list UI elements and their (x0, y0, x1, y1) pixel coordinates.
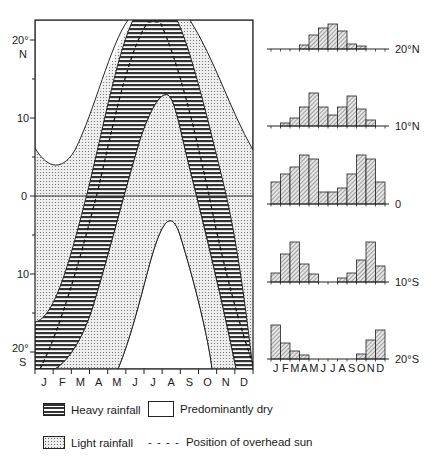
histogram-month-label: O (357, 362, 366, 374)
histogram-month-label: A (339, 362, 347, 374)
month-label: M (112, 376, 121, 388)
y-axis (30, 40, 35, 352)
histogram-month-label: F (282, 362, 289, 374)
histogram-month-label: S (348, 362, 355, 374)
month-label: O (203, 376, 212, 388)
month-label: M (76, 376, 85, 388)
light-rainfall-swatch (43, 436, 65, 449)
legend-heavy: Heavy rainfall (43, 403, 141, 416)
histogram-month-label: M (290, 362, 299, 374)
month-label: D (240, 376, 248, 388)
legend-light-label: Light rainfall (71, 437, 133, 449)
histogram: 10°S (267, 242, 419, 288)
y-label-10s: 10 (17, 268, 29, 280)
legend-heavy-label: Heavy rainfall (71, 404, 141, 416)
histogram-latitude-label: 20°S (395, 353, 419, 365)
histogram-month-label: J (273, 362, 279, 374)
month-label: J (132, 376, 138, 388)
legend-sun-label: Position of overhead sun (186, 436, 313, 448)
histogram-month-label: M (309, 362, 318, 374)
histogram-latitude-label: 20°N (395, 43, 420, 55)
histogram-month-label: D (376, 362, 384, 374)
heavy-rainfall-swatch (43, 403, 65, 416)
legend-sun: - - - - Position of overhead sun (148, 436, 313, 448)
month-label: F (59, 376, 66, 388)
histogram: 0 (267, 155, 401, 210)
histogram: 10°N (267, 93, 420, 132)
month-label: J (150, 376, 156, 388)
y-label-0: 0 (21, 190, 27, 202)
histogram-month-label: N (367, 362, 375, 374)
x-axis: JFMAMJJASOND (35, 369, 253, 388)
histogram-latitude-label: 10°N (395, 120, 420, 132)
latitude-season-chart: 20° N 10 0 10 20° S JFMAMJJASOND (12, 10, 255, 388)
histogram: 20°N (267, 24, 420, 55)
histogram-month-label: J (321, 362, 327, 374)
y-label-10n: 10 (17, 112, 29, 124)
histogram-month-label: A (301, 362, 309, 374)
legend-light: Light rainfall (43, 436, 133, 449)
y-label-20s: 20° (12, 342, 29, 354)
y-label-s: S (19, 356, 26, 368)
month-label: J (41, 376, 47, 388)
y-label-20n: 20° (12, 34, 29, 46)
y-label-n: N (19, 48, 27, 60)
histogram-month-label: J (330, 362, 336, 374)
histogram: 20°S (267, 325, 419, 365)
month-label: N (222, 376, 230, 388)
legend-dry: Predominantly dry (148, 401, 273, 417)
month-label: A (168, 376, 176, 388)
histogram-latitude-label: 10°S (395, 276, 419, 288)
dashed-line-symbol: - - - - (148, 436, 180, 448)
dry-swatch (148, 401, 174, 417)
legend-dry-label: Predominantly dry (180, 403, 273, 415)
rainfall-diagram: 20° N 10 0 10 20° S JFMAMJJASOND 20°N10°… (0, 0, 433, 467)
month-label: A (95, 376, 103, 388)
month-label: S (186, 376, 193, 388)
histogram-latitude-label: 0 (395, 198, 401, 210)
rainfall-histograms: 20°N10°N010°S20°SJFMAMJJASOND (267, 24, 420, 374)
